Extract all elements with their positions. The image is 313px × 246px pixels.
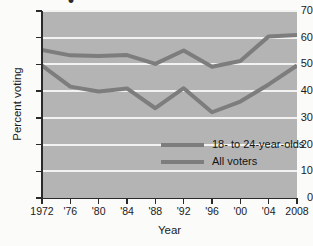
x-axis-line bbox=[41, 198, 297, 200]
x-axis-title: Year bbox=[42, 224, 297, 236]
y-tick-label-70: 70 bbox=[279, 5, 313, 16]
voter-turnout-line-chart: • 18- to 24-year-olds All voters 0102030… bbox=[0, 0, 313, 246]
plot-area: 18- to 24-year-olds All voters bbox=[42, 11, 297, 198]
y-tick-label-30: 30 bbox=[279, 112, 313, 123]
x-tick-2 bbox=[98, 198, 100, 204]
y-tick-40 bbox=[36, 90, 42, 92]
series-layer bbox=[42, 11, 297, 198]
x-tick-1 bbox=[70, 198, 72, 204]
legend-label-all-voters: All voters bbox=[212, 156, 257, 167]
legend-swatch-all-voters bbox=[161, 160, 204, 164]
x-tick-0 bbox=[41, 198, 43, 204]
y-tick-20 bbox=[36, 144, 42, 146]
x-tick-4 bbox=[155, 198, 157, 204]
x-tick-5 bbox=[183, 198, 185, 204]
x-tick-label-9: 2008 bbox=[277, 206, 313, 217]
series-line-1 bbox=[42, 66, 297, 113]
y-tick-label-60: 60 bbox=[279, 32, 313, 43]
x-tick-3 bbox=[126, 198, 128, 204]
y-tick-30 bbox=[36, 117, 42, 119]
legend-swatch-youth bbox=[161, 143, 204, 147]
y-tick-10 bbox=[36, 171, 42, 173]
y-tick-label-40: 40 bbox=[279, 85, 313, 96]
y-tick-label-50: 50 bbox=[279, 58, 313, 69]
x-tick-6 bbox=[211, 198, 213, 204]
y-tick-label-10: 10 bbox=[279, 165, 313, 176]
x-tick-8 bbox=[268, 198, 270, 204]
y-tick-60 bbox=[36, 37, 42, 39]
series-line-0 bbox=[42, 35, 297, 67]
x-tick-9 bbox=[296, 198, 298, 204]
y-tick-70 bbox=[36, 10, 42, 12]
y-tick-label-20: 20 bbox=[279, 139, 313, 150]
y-axis-title: Percent voting bbox=[11, 49, 23, 159]
x-tick-7 bbox=[240, 198, 242, 204]
y-tick-50 bbox=[36, 64, 42, 66]
